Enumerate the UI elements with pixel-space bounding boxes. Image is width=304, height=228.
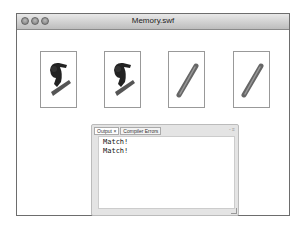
memory-card-2[interactable] [104,51,141,108]
window-title: Memory.swf [17,16,289,25]
memory-card-3[interactable] [168,51,205,108]
memory-card-4[interactable] [233,51,270,108]
output-panel: Output × Compiler Errors - ≡ Match! Matc… [91,124,239,216]
output-line: Match! [103,138,230,147]
tab-output[interactable]: Output × [94,127,119,135]
panel-menu-icon[interactable]: - ≡ [229,126,235,132]
output-text-area[interactable]: Match! Match! [98,136,235,209]
pipe-stick-icon [234,52,269,107]
app-window: Memory.swf Output × Compiler Errors [16,13,290,216]
output-line: Match! [103,147,230,156]
snowboarder-icon [105,52,140,107]
tab-compiler-errors[interactable]: Compiler Errors [120,127,161,135]
resize-handle[interactable] [231,208,237,214]
title-bar[interactable]: Memory.swf [17,14,289,30]
panel-tabs: Output × Compiler Errors [94,127,162,135]
pipe-stick-icon [169,52,204,107]
snowboarder-icon [41,52,76,107]
memory-card-1[interactable] [40,51,77,108]
